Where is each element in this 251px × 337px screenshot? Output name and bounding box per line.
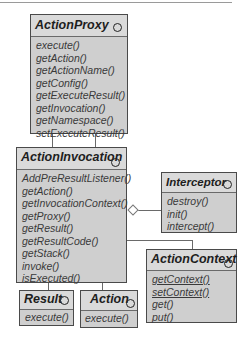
operation: get() — [152, 298, 236, 311]
class-name: Action — [90, 292, 129, 306]
operation: getAction() — [36, 52, 127, 65]
operation: isExecuted() — [22, 272, 126, 285]
class-action-proxy[interactable]: ActionProxy execute() getAction() getAct… — [30, 14, 128, 134]
class-result[interactable]: Result execute() — [19, 290, 74, 326]
operation: destroy() — [167, 195, 236, 208]
class-action-context[interactable]: ActionContext getContext() setContext() … — [146, 249, 237, 323]
operation: getResultCode() — [22, 235, 126, 248]
interface-circle-icon — [224, 259, 233, 268]
operation: intercept() — [167, 220, 236, 233]
operation: put() — [152, 311, 236, 324]
operation: getProxy() — [22, 210, 126, 223]
connector-invocation-context-v — [192, 240, 193, 249]
page-top-rule — [0, 2, 232, 3]
operations-list: destroy() init() intercept() — [162, 193, 236, 233]
class-name: Interceptor — [166, 176, 226, 188]
aggregation-diamond-icon — [127, 204, 138, 215]
operation: getConfig() — [36, 77, 127, 90]
operation: getAction() — [22, 185, 126, 198]
class-header: ActionInvocation — [17, 148, 126, 170]
class-action-invocation[interactable]: ActionInvocation AddPreResultListener() … — [16, 147, 127, 283]
operation: execute() — [85, 312, 137, 325]
operations-list: execute() — [20, 310, 73, 324]
class-action[interactable]: Action execute() — [80, 290, 138, 328]
operation: execute() — [36, 39, 127, 52]
class-header: ActionContext — [147, 250, 236, 271]
operations-list: execute() getAction() getActionName() ge… — [31, 37, 127, 139]
operation: init() — [167, 208, 236, 221]
operations-list: AddPreResultListener() getAction() getIn… — [17, 170, 126, 285]
class-header: Interceptor — [162, 173, 236, 193]
operation: invoke() — [22, 260, 126, 273]
interface-circle-icon — [60, 296, 69, 305]
interface-circle-icon — [126, 299, 135, 308]
class-name: ActionProxy — [35, 18, 109, 32]
operation: execute() — [25, 311, 73, 324]
connector-invocation-interceptor — [137, 210, 161, 211]
interface-circle-icon — [223, 180, 232, 189]
class-header: Action — [81, 291, 137, 311]
connector-invocation-context-h — [126, 240, 193, 241]
operation: getResult() — [22, 222, 126, 235]
operation: AddPreResultListener() — [22, 172, 126, 185]
operations-list: execute() — [81, 311, 137, 325]
operation: getExecuteResult() — [36, 89, 127, 102]
operation: getInvocationContext() — [22, 197, 126, 210]
class-header: ActionProxy — [31, 15, 127, 37]
operation: getNamespace() — [36, 114, 127, 127]
operation: getActionName() — [36, 64, 127, 77]
class-name: ActionInvocation — [21, 150, 122, 164]
interface-circle-icon — [113, 23, 122, 32]
static-operation: setContext() — [152, 286, 236, 299]
operation: setExecuteResult() — [36, 127, 127, 140]
interface-circle-icon — [111, 158, 120, 167]
operation: getStack() — [22, 247, 126, 260]
class-header: Result — [20, 291, 73, 310]
operations-list: getContext() setContext() get() put() — [147, 271, 236, 323]
class-interceptor[interactable]: Interceptor destroy() init() intercept() — [161, 172, 237, 233]
operation: getInvocation() — [36, 102, 127, 115]
class-name: Result — [24, 292, 62, 306]
static-operation: getContext() — [152, 273, 236, 286]
